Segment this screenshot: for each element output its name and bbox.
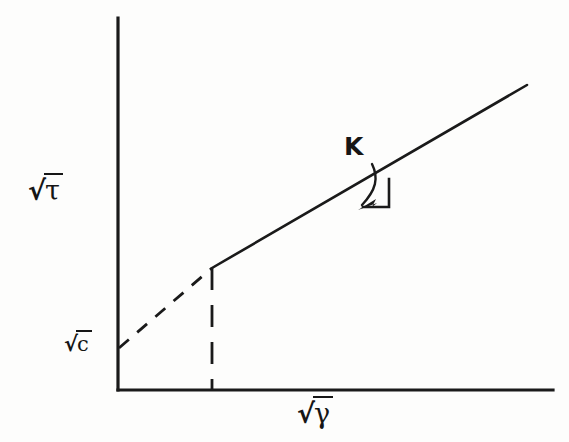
x-axis-symbol: γ [313, 396, 333, 427]
slope-arrow-icon [358, 199, 377, 210]
extrapolated-yield-line [119, 268, 212, 348]
radical-group: √γ [295, 396, 333, 427]
figure-container: √τ √c √γ K [0, 0, 569, 442]
radical-group: √τ [26, 173, 63, 204]
y-axis-label: √τ [26, 173, 63, 204]
slope-label: K [344, 134, 363, 159]
leader-line-icon [362, 164, 376, 205]
x-axis-label: √γ [295, 396, 333, 427]
measured-flow-curve [212, 85, 527, 268]
y-intercept-symbol: c [76, 330, 92, 355]
y-intercept-label: √c [62, 330, 92, 355]
radical-group: √c [62, 330, 92, 355]
y-axis-symbol: τ [44, 173, 63, 204]
plot-canvas [0, 0, 569, 442]
